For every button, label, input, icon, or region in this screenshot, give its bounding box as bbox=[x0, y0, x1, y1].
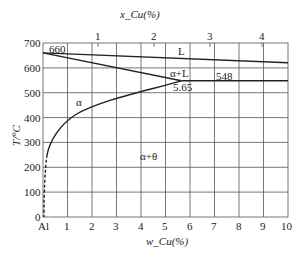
top-tick: 4 bbox=[259, 31, 265, 42]
x-tick: 7 bbox=[211, 221, 217, 232]
eutectic-comp-label: 5.65 bbox=[173, 82, 192, 93]
region-liquid: L bbox=[178, 46, 185, 57]
x-tick: 6 bbox=[187, 221, 193, 232]
region-alpha-theta: α+θ bbox=[140, 151, 157, 162]
y-axis-label: T/°C bbox=[11, 125, 22, 146]
top-tick: 3 bbox=[207, 31, 213, 42]
region-alpha: α bbox=[76, 97, 82, 108]
y-tick: 300 bbox=[24, 137, 41, 148]
x-tick: 5 bbox=[162, 221, 168, 232]
x-tick: 8 bbox=[236, 221, 242, 232]
x-tick: Al bbox=[38, 221, 49, 232]
top-tick: 1 bbox=[95, 31, 101, 42]
x-tick: 9 bbox=[260, 221, 266, 232]
region-alpha-liquid: α+L bbox=[170, 68, 189, 79]
x-tick: 4 bbox=[138, 221, 144, 232]
solvus-dashed bbox=[44, 155, 47, 217]
melting-point-label: 660 bbox=[49, 44, 66, 55]
top-tick: 2 bbox=[151, 31, 157, 42]
x-tick: 3 bbox=[113, 221, 119, 232]
x-tick: 2 bbox=[89, 221, 95, 232]
x-axis-label: w_Cu(%) bbox=[146, 236, 188, 247]
y-tick: 700 bbox=[24, 38, 41, 49]
top-axis-label: x_Cu(%) bbox=[120, 9, 160, 20]
eutectic-temp-label: 548 bbox=[216, 71, 233, 82]
y-tick: 500 bbox=[24, 88, 41, 99]
grid bbox=[43, 43, 288, 217]
x-tick: 1 bbox=[64, 221, 70, 232]
y-tick: 600 bbox=[24, 63, 41, 74]
y-tick: 100 bbox=[24, 187, 41, 198]
x-tick: 10 bbox=[281, 221, 292, 232]
y-tick: 400 bbox=[24, 113, 41, 124]
y-tick: 200 bbox=[24, 162, 41, 173]
